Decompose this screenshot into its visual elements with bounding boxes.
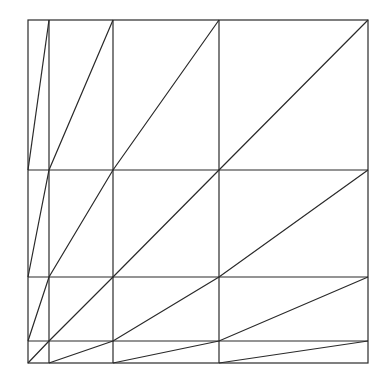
diagonal-line-2 [49, 170, 368, 363]
horizontal-grid-lines [28, 170, 368, 341]
diagonal-line-4 [219, 341, 368, 363]
diagonal-lines [28, 20, 368, 363]
diagonal-line-3 [113, 277, 368, 363]
diagonal-line-7 [28, 20, 49, 170]
diagonal-line-1 [28, 20, 368, 363]
diagonal-line-5 [28, 20, 219, 341]
vertical-grid-lines [49, 20, 219, 363]
diagonal-line-6 [28, 20, 113, 277]
grid-diagonal-diagram [0, 0, 386, 385]
